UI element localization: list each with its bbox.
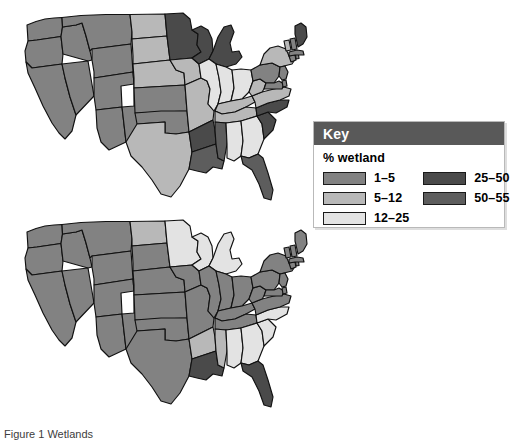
state-de [282, 80, 287, 87]
state-ma [289, 50, 304, 56]
state-fl [241, 361, 273, 407]
state-nd [130, 14, 167, 39]
state-ut [94, 279, 134, 317]
state-sd [132, 243, 170, 271]
key-entry-label: 25–50 [474, 171, 509, 185]
state-mi [209, 232, 242, 274]
top-us-choropleth-map [6, 8, 316, 208]
state-or [25, 244, 63, 276]
state-ks [134, 292, 187, 320]
key-columns: 1–5 5–12 12–25 25–50 [323, 170, 504, 226]
state-nj [279, 273, 288, 287]
state-fl [241, 154, 273, 200]
state-ut [94, 72, 134, 110]
state-pa [251, 270, 280, 290]
key-entry-label: 50–55 [474, 191, 509, 205]
state-de [282, 287, 287, 294]
state-nd [130, 221, 167, 246]
key-entry: 5–12 [323, 190, 409, 206]
key-entry-label: 12–25 [374, 211, 409, 225]
key-entry: 1–5 [323, 170, 409, 186]
state-me [295, 23, 307, 47]
key-column-left: 1–5 5–12 12–25 [323, 170, 409, 226]
state-mn [165, 13, 201, 60]
bottom-map-states [25, 220, 307, 407]
top-map-states [25, 13, 307, 200]
state-mi [209, 25, 242, 67]
key-body: % wetland 1–5 5–12 12–25 [314, 145, 504, 226]
key-swatch-icon [323, 172, 366, 185]
state-tx [126, 329, 192, 404]
map-key: Key % wetland 1–5 5–12 12–25 [313, 121, 505, 228]
key-entry: 25–50 [423, 170, 509, 186]
key-column-right: 25–50 50–55 [423, 170, 509, 226]
bottom-us-choropleth-map [6, 215, 316, 415]
state-tx [126, 122, 192, 197]
key-title: Key [323, 126, 349, 142]
key-entry: 12–25 [323, 210, 409, 226]
top-map-panel [6, 8, 316, 208]
figure-caption: Figure 1 Wetlands [4, 428, 364, 440]
key-entry-label: 5–12 [374, 191, 402, 205]
state-ma [289, 257, 304, 263]
key-entry-label: 1–5 [374, 171, 395, 185]
state-al [226, 328, 243, 368]
state-az [96, 314, 126, 357]
state-nj [279, 66, 288, 80]
key-subtitle: % wetland [323, 151, 504, 165]
key-swatch-icon [323, 212, 366, 225]
key-swatch-icon [423, 192, 466, 205]
key-entry: 50–55 [423, 190, 509, 206]
state-az [96, 107, 126, 150]
state-me [295, 230, 307, 254]
key-swatch-icon [423, 172, 466, 185]
state-sd [132, 36, 170, 64]
state-al [226, 121, 243, 161]
state-or [25, 37, 63, 69]
key-swatch-icon [323, 192, 366, 205]
key-header: Key [314, 122, 504, 145]
bottom-map-panel [6, 215, 316, 415]
wetlands-figure: Key % wetland 1–5 5–12 12–25 [0, 0, 517, 440]
state-mn [165, 220, 201, 267]
state-pa [251, 63, 280, 83]
state-ks [134, 85, 187, 113]
